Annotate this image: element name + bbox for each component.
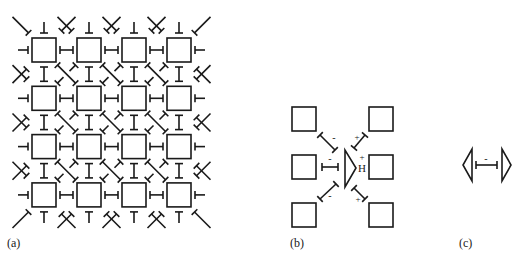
diagonal-stub bbox=[55, 174, 64, 183]
lattice-square bbox=[32, 183, 56, 207]
edge-bond-top bbox=[175, 22, 183, 33]
lattice-square bbox=[167, 183, 191, 207]
edge-bond-top bbox=[130, 22, 138, 33]
horizontal-bond bbox=[150, 46, 163, 54]
diagonal-bond bbox=[194, 65, 211, 82]
edge-bond-right bbox=[195, 94, 205, 102]
diagonal-stub bbox=[160, 111, 169, 120]
cluster-square-left bbox=[292, 155, 316, 179]
horizontal-bond bbox=[105, 191, 118, 199]
center-triangle bbox=[345, 150, 356, 187]
bond-middle-left bbox=[322, 163, 338, 171]
diagonal-stub bbox=[115, 111, 124, 120]
lattice-square bbox=[167, 135, 191, 159]
horizontal-bond bbox=[150, 94, 163, 102]
lattice-square bbox=[77, 135, 101, 159]
vertical-bond bbox=[85, 67, 93, 81]
vertical-bond bbox=[130, 164, 138, 178]
panel-a-lattice bbox=[13, 17, 211, 228]
vertical-bond bbox=[175, 67, 183, 81]
diagonal-bond bbox=[13, 162, 30, 179]
diagonal-stub bbox=[115, 62, 124, 71]
corner-bond bbox=[192, 17, 211, 36]
panel-c-pair: - bbox=[463, 149, 511, 181]
lattice-square bbox=[167, 38, 191, 62]
diagonal-bond bbox=[194, 66, 211, 83]
diagonal-bond bbox=[13, 65, 30, 82]
vertical-bond bbox=[40, 67, 48, 81]
left-triangle bbox=[463, 149, 472, 181]
lattice-square bbox=[32, 86, 56, 110]
vertical-bond bbox=[40, 164, 48, 178]
diagonal-bond bbox=[13, 163, 30, 180]
edge-bond-top bbox=[85, 22, 93, 33]
diagonal-bond bbox=[104, 211, 121, 228]
diagonal-stub bbox=[55, 77, 64, 86]
diagonal-bond bbox=[58, 17, 75, 34]
lattice-square bbox=[77, 86, 101, 110]
horizontal-bond bbox=[150, 191, 163, 199]
cluster-square-left bbox=[292, 107, 316, 131]
diagonal-bond bbox=[194, 115, 211, 132]
diagonal-stub bbox=[70, 62, 79, 71]
vertical-bond bbox=[40, 115, 48, 129]
horizontal-bond bbox=[150, 143, 163, 151]
diagonal-bond bbox=[59, 17, 76, 34]
cluster-square-right bbox=[369, 155, 393, 179]
edge-bond-left bbox=[18, 46, 28, 54]
diagonal-stub bbox=[145, 174, 154, 183]
lattice-square bbox=[122, 183, 146, 207]
vertical-bond bbox=[85, 164, 93, 178]
horizontal-bond bbox=[105, 143, 118, 151]
corner-bond bbox=[192, 209, 211, 228]
diagonal-bond bbox=[148, 211, 165, 228]
vertical-bond bbox=[175, 164, 183, 178]
edge-bond-right bbox=[195, 143, 205, 151]
vertical-bond bbox=[130, 67, 138, 81]
edge-bond-bottom bbox=[40, 212, 48, 223]
diagonal-bond bbox=[13, 66, 30, 83]
edge-bond-left bbox=[18, 94, 28, 102]
cluster-square-left bbox=[292, 203, 316, 227]
panel-c-label: (c) bbox=[459, 236, 472, 251]
diagonal-stub bbox=[100, 174, 109, 183]
diagonal-stub bbox=[115, 159, 124, 168]
diagonal-bond bbox=[59, 211, 76, 228]
diagonal-bond bbox=[104, 17, 121, 34]
lattice-square bbox=[77, 38, 101, 62]
sign-middle-left: - bbox=[328, 153, 331, 164]
sign-center: + bbox=[359, 152, 364, 162]
diagonal-bond bbox=[103, 211, 120, 228]
diagonal-stub bbox=[100, 77, 109, 86]
right-triangle bbox=[502, 149, 511, 181]
lattice-square bbox=[122, 38, 146, 62]
diagonal-stub bbox=[160, 62, 169, 71]
horizontal-bond bbox=[60, 191, 73, 199]
pair-sign: - bbox=[484, 153, 487, 164]
diagonal-stub bbox=[100, 125, 109, 134]
center-letter-h: H bbox=[358, 162, 366, 174]
diagonal-stub bbox=[70, 159, 79, 168]
lattice-square bbox=[122, 135, 146, 159]
vertical-bond bbox=[85, 115, 93, 129]
edge-bond-bottom bbox=[175, 212, 183, 223]
sign-upper-right: + bbox=[354, 132, 359, 142]
diagonal-bond bbox=[148, 17, 165, 34]
edge-bond-top bbox=[40, 22, 48, 33]
diagonal-bond bbox=[58, 211, 75, 228]
diagonal-bond bbox=[13, 115, 30, 132]
panel-b-cluster: --++-+H bbox=[292, 107, 393, 227]
lattice-square bbox=[167, 86, 191, 110]
diagonal-bond bbox=[194, 163, 211, 180]
edge-bond-right bbox=[195, 191, 205, 199]
edge-bond-bottom bbox=[130, 212, 138, 223]
diagonal-bond bbox=[149, 211, 166, 228]
diagonal-bond bbox=[103, 17, 120, 34]
cluster-square-right bbox=[369, 107, 393, 131]
figure-canvas: --++-+H - bbox=[0, 0, 529, 264]
horizontal-bond bbox=[60, 46, 73, 54]
corner-bond bbox=[13, 17, 32, 36]
diagonal-bond bbox=[13, 113, 30, 130]
panel-a-label: (a) bbox=[7, 236, 20, 251]
diagonal-stub bbox=[70, 111, 79, 120]
